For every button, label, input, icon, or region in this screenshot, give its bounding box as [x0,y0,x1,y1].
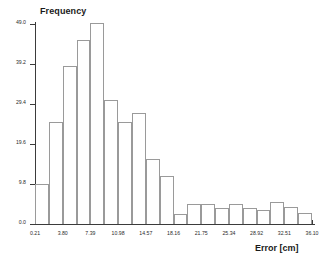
histogram-bar [118,122,132,224]
x-tick-label: 36.10 [298,230,325,236]
y-tick-label: 29.4 [0,99,26,105]
histogram-bar [298,213,312,224]
histogram-bar [146,159,160,224]
histogram-bars [35,24,315,224]
histogram-bar [104,100,118,224]
histogram-bar [187,204,201,224]
histogram-bar [257,210,271,224]
histogram-bar [174,214,188,224]
x-axis-title: Error [cm] [255,243,299,253]
histogram-bar [270,202,284,224]
histogram-bar [229,204,243,224]
x-tick-label: 28.92 [243,230,271,236]
histogram-bar [35,184,49,224]
x-tick-label: 7.39 [76,230,104,236]
x-tick-label: 10.98 [104,230,132,236]
y-tick-label: 0.0 [0,219,26,225]
x-tick-label: 18.16 [160,230,188,236]
histogram-chart: Frequency Error [cm] 0.09.819.629.439.24… [0,0,325,263]
histogram-bar [49,122,63,224]
x-tick-label: 14.57 [132,230,160,236]
histogram-bar [63,66,77,224]
histogram-bar [77,40,91,224]
x-tick-label: 21.75 [187,230,215,236]
y-axis-title: Frequency [40,6,86,16]
histogram-bar [201,204,215,224]
histogram-bar [132,113,146,224]
y-tick-label: 49.0 [0,19,26,25]
y-tick-label: 19.6 [0,139,26,145]
y-tick-label: 39.2 [0,59,26,65]
histogram-bar [243,208,257,224]
histogram-bar [90,23,104,224]
histogram-bar [160,176,174,224]
x-tick-label: 0.21 [21,230,49,236]
y-tick-label: 9.8 [0,179,26,185]
x-tick-label: 25.34 [215,230,243,236]
x-axis-line [35,224,315,225]
histogram-bar [215,208,229,224]
x-tick-label: 3.80 [49,230,77,236]
x-tick-label: 32.51 [270,230,298,236]
histogram-bar [284,207,298,224]
